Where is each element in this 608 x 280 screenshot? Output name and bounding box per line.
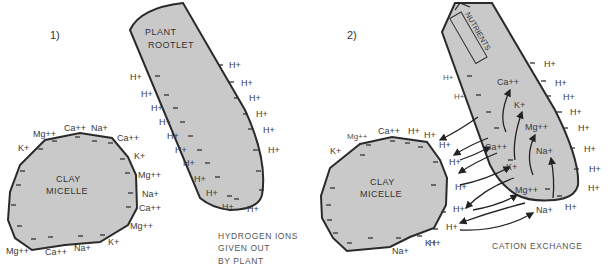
ion-label: H+: [570, 107, 582, 117]
ion-label: Ca++: [64, 123, 86, 133]
ion-label: H+: [565, 202, 577, 212]
ion-label: K+: [18, 143, 29, 153]
ion-label: H+: [175, 145, 187, 155]
ion-label: H+: [584, 144, 596, 154]
ion-label: H+: [229, 60, 241, 70]
ion-label: H+: [249, 93, 261, 103]
ion-label: H+: [453, 204, 465, 214]
ion-label: H+: [159, 117, 171, 127]
ion-label: H+: [206, 188, 218, 198]
ion-label: Ca++: [139, 203, 161, 213]
ion-label: K+: [514, 100, 525, 110]
ion-label: Mg++: [6, 246, 29, 256]
ion-label: H+: [578, 123, 590, 133]
caption-line3: BY PLANT: [218, 256, 264, 266]
micelle-2-label-line1: CLAY: [370, 177, 395, 187]
ion-label: H+: [446, 222, 458, 232]
panel-2: 2) NUTRIENTS H+ H+ H+: [321, 3, 601, 256]
ion-label: H+: [194, 174, 206, 184]
ion-label: H+: [263, 125, 275, 135]
ion-label: K+: [134, 151, 145, 161]
ion-label: Mg++: [525, 122, 548, 132]
ion-label: H+: [449, 157, 461, 167]
ion-label: H+: [141, 89, 153, 99]
ion-label: Na+: [536, 205, 553, 215]
rootlet-label-line1: PLANT: [145, 27, 177, 37]
ion-label: K+: [330, 146, 341, 156]
ion-label: Mg++: [347, 132, 368, 141]
ion-label: H+: [588, 183, 600, 193]
ion-label: Na+: [392, 246, 409, 256]
ion-label: H+: [555, 78, 567, 88]
ion-label: H+: [544, 59, 556, 69]
ion-label: Mg++: [130, 221, 153, 231]
ion-label: H+: [454, 92, 465, 101]
ion-label: H+: [241, 78, 253, 88]
ion-label: H+: [439, 140, 451, 150]
micelle-2-label-line2: MICELLE: [360, 189, 402, 199]
ion-label: H+: [183, 158, 195, 168]
ion-label: K+: [425, 238, 436, 248]
ion-label: Na+: [91, 123, 108, 133]
panel-1: 1) PLANT ROOTLET H+: [6, 3, 298, 266]
ion-label: H+: [151, 103, 163, 113]
ion-label: Mg++: [138, 170, 161, 180]
ion-label: H+: [247, 204, 259, 214]
ion-label: Ca++: [378, 126, 400, 136]
panel-1-number: 1): [50, 29, 60, 41]
ion-label: H+: [222, 202, 234, 212]
rootlet-label-line2: ROOTLET: [148, 40, 194, 50]
micelle-label-line1: CLAY: [56, 174, 81, 184]
ion-label: Ca++: [497, 77, 519, 87]
micelle-label-line2: MICELLE: [46, 186, 88, 196]
ion-label: H+: [589, 164, 601, 174]
ion-label: H+: [443, 73, 454, 82]
ion-label: H+: [130, 72, 142, 82]
ion-label: Na+: [74, 243, 91, 253]
ion-label: Mg++: [33, 129, 56, 139]
ion-label: Na+: [536, 146, 553, 156]
cation-exchange-diagram: 1) PLANT ROOTLET H+: [0, 0, 608, 280]
caption-line1: HYDROGEN IONS: [218, 231, 298, 241]
ion-label: Mg++: [515, 185, 538, 195]
ion-label: K+: [506, 162, 517, 172]
caption-hydrogen-ions: HYDROGEN IONS GIVEN OUT BY PLANT: [218, 231, 298, 266]
ion-label: H+: [167, 131, 179, 141]
caption-line2: GIVEN OUT: [218, 243, 270, 253]
ion-label: H+: [268, 145, 280, 155]
ion-label: H+: [408, 126, 420, 136]
ion-label: Na+: [142, 189, 159, 199]
caption-cation-exchange: CATION EXCHANGE: [492, 241, 583, 251]
ion-label: H+: [424, 130, 436, 140]
ion-label: K+: [108, 237, 119, 247]
panel-2-number: 2): [347, 29, 357, 41]
ion-label: H+: [563, 92, 575, 102]
ion-label: H+: [256, 109, 268, 119]
ion-label: Ca++: [117, 133, 139, 143]
ion-label: Ca++: [45, 247, 67, 257]
ion-label: Ca++: [485, 142, 507, 152]
